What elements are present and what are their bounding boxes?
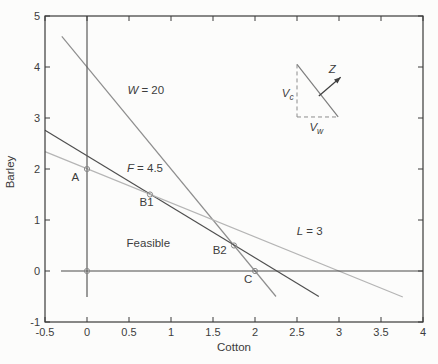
label-f-constraint: F = 4.5 (127, 162, 163, 174)
x-tick-label: 0.5 (121, 326, 136, 338)
label-feasible-region-text: Feasible (127, 237, 170, 249)
x-tick-label: 2 (252, 326, 258, 338)
y-tick-label: 4 (34, 61, 40, 73)
y-tick-label: 1 (34, 214, 40, 226)
x-tick-label: 1 (168, 326, 174, 338)
label-w-constraint: W = 20 (127, 84, 164, 96)
x-tick-label: 3 (336, 326, 342, 338)
x-axis-label: Cotton (217, 341, 251, 353)
label-f-constraint-text: = 4.5 (134, 162, 163, 174)
label-point-B2: B2 (213, 244, 227, 256)
label-vw-vector: Vw (309, 121, 324, 136)
label-w-constraint-text: = 20 (138, 84, 164, 96)
y-axis-label: Barley (4, 155, 16, 188)
y-tick-label: 0 (34, 265, 40, 277)
label-l-constraint-text: = 3 (303, 225, 323, 237)
label-vc-vector: Vc (282, 87, 295, 102)
chart-canvas: -0.500.511.522.533.54-1012345W = 20F = 4… (0, 0, 438, 364)
label-point-B1: B1 (140, 196, 154, 208)
x-tick-label: 0 (84, 326, 90, 338)
y-tick-label: 2 (34, 163, 40, 175)
land-constraint-line (45, 152, 403, 297)
y-tick-label: 5 (34, 10, 40, 22)
label-vw-vector-text: w (317, 126, 324, 136)
label-point-A-text: A (71, 171, 79, 183)
lp-feasible-region-figure: -0.500.511.522.533.54-1012345W = 20F = 4… (0, 0, 438, 364)
label-point-C: C (244, 273, 252, 285)
label-point-C-text: C (244, 273, 252, 285)
plot-border (45, 16, 423, 322)
x-tick-label: 2.5 (289, 326, 304, 338)
label-l-constraint: L = 3 (297, 225, 323, 237)
x-tick-label: 4 (420, 326, 426, 338)
x-tick-label: 3.5 (373, 326, 388, 338)
label-point-B2-text: B2 (213, 244, 227, 256)
y-tick-label: 3 (34, 112, 40, 124)
plot-layer: -0.500.511.522.533.54-1012345W = 20F = 4… (30, 10, 426, 338)
x-tick-label: 1.5 (205, 326, 220, 338)
label-vc-vector-text: c (289, 92, 294, 102)
label-z-vector: Z (328, 63, 337, 75)
label-point-A: A (71, 171, 79, 183)
y-tick-label: -1 (30, 316, 40, 328)
label-z-vector-text: Z (328, 63, 337, 75)
label-feasible-region: Feasible (127, 237, 170, 249)
water-constraint-line (62, 36, 276, 296)
label-point-B1-text: B1 (140, 196, 154, 208)
